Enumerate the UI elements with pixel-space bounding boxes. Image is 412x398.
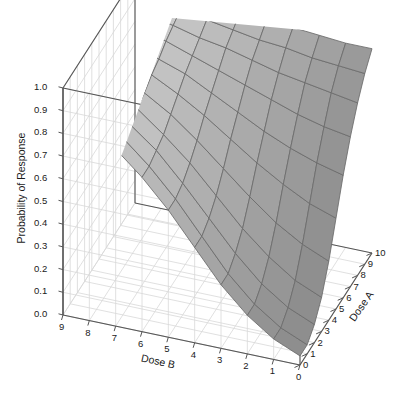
y-tick-label: 2 bbox=[317, 337, 322, 348]
x-tick bbox=[167, 337, 169, 342]
y-tick-label: 0 bbox=[303, 359, 308, 370]
z-tick-label: 0.3 bbox=[34, 240, 47, 251]
surface-patch bbox=[180, 0, 214, 20]
y-tick-label: 4 bbox=[332, 314, 337, 325]
x-tick-label: 3 bbox=[217, 354, 222, 365]
z-tick bbox=[59, 110, 64, 111]
plot-canvas bbox=[0, 0, 412, 398]
z-tick-label: 0.4 bbox=[34, 217, 47, 228]
x-tick-label: 2 bbox=[243, 360, 248, 371]
z-tick-label: 0.9 bbox=[34, 104, 47, 115]
y-tick-label: 3 bbox=[325, 325, 330, 336]
x-tick-label: 9 bbox=[59, 321, 64, 332]
z-tick-label: 0.2 bbox=[34, 263, 47, 274]
x-tick-label: 0 bbox=[296, 371, 301, 382]
x-tick-label: 5 bbox=[164, 343, 169, 354]
surface-patch bbox=[113, 5, 147, 29]
y-tick-label: 7 bbox=[353, 281, 358, 292]
y-tick-label: 1 bbox=[310, 348, 315, 359]
x-tick-label: 6 bbox=[138, 338, 143, 349]
z-tick-label: 0.1 bbox=[34, 285, 47, 296]
x-tick bbox=[141, 332, 143, 337]
y-tick-label: 8 bbox=[361, 269, 366, 280]
y-tick-label: 9 bbox=[368, 258, 373, 269]
x-tick bbox=[220, 348, 222, 353]
z-tick-label: 0.7 bbox=[34, 149, 47, 160]
x-tick bbox=[62, 315, 64, 320]
z-tick-label: 1.0 bbox=[34, 81, 47, 92]
z-tick bbox=[59, 155, 64, 156]
z-tick bbox=[59, 268, 64, 269]
z-tick-label: 0.8 bbox=[34, 126, 47, 137]
x-tick-label: 4 bbox=[191, 349, 196, 360]
x-tick bbox=[272, 359, 274, 364]
z-tick bbox=[59, 87, 64, 88]
z-tick-label: 0.0 bbox=[34, 308, 47, 319]
z-tick-label: 0.6 bbox=[34, 172, 47, 183]
x-tick bbox=[193, 343, 195, 348]
y-tick-label: 10 bbox=[375, 247, 386, 258]
x-tick-label: 1 bbox=[270, 365, 275, 376]
z-tick bbox=[59, 178, 64, 179]
z-tick-label: 0.5 bbox=[34, 195, 47, 206]
y-tick-label: 5 bbox=[339, 303, 344, 314]
z-tick bbox=[59, 246, 64, 247]
surface-plot-figure: Probability of Response Dose B Dose A 0.… bbox=[0, 0, 412, 398]
z-tick bbox=[59, 223, 64, 224]
x-tick bbox=[88, 321, 90, 326]
z-axis-title: Probability of Response bbox=[15, 128, 27, 248]
z-tick bbox=[59, 291, 64, 292]
x-tick-label: 8 bbox=[85, 327, 90, 338]
x-tick bbox=[246, 354, 248, 359]
z-tick bbox=[59, 200, 64, 201]
z-tick bbox=[59, 132, 64, 133]
surface-patch bbox=[154, 0, 188, 10]
x-tick-label: 7 bbox=[112, 332, 117, 343]
z-tick bbox=[59, 314, 64, 315]
x-tick bbox=[114, 326, 116, 331]
y-tick-label: 6 bbox=[346, 292, 351, 303]
